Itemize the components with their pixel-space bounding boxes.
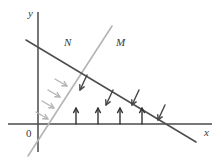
arrows-layer bbox=[36, 75, 165, 124]
x-axis-label: x bbox=[203, 126, 209, 138]
gray-arrows-perpendicular-to-M bbox=[36, 79, 67, 119]
origin-label: 0 bbox=[26, 127, 32, 139]
dark-arrows-vertical-up bbox=[74, 108, 145, 124]
figure-canvas: y x 0 M N bbox=[0, 0, 221, 162]
y-axis-label: y bbox=[27, 7, 33, 19]
line-m-label: M bbox=[115, 36, 126, 48]
geometry-figure: y x 0 M N bbox=[0, 0, 221, 162]
axes-group bbox=[8, 12, 212, 152]
lines-group bbox=[26, 26, 196, 156]
line-n bbox=[26, 40, 196, 142]
labels-group: y x 0 M N bbox=[26, 7, 209, 139]
line-n-label: N bbox=[63, 36, 72, 48]
